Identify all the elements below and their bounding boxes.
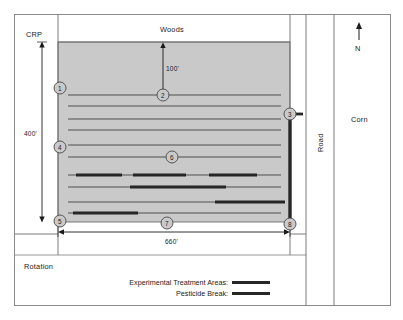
marker-1-label: 1	[58, 85, 62, 92]
marker-4-label: 4	[58, 144, 62, 151]
setback-dimension-label: 100'	[166, 65, 179, 72]
legend-item-pesticide: Pesticide Break:	[110, 289, 270, 298]
rotation-label: Rotation	[24, 262, 53, 271]
marker-6-label: 6	[170, 154, 174, 161]
north-label: N	[355, 44, 361, 53]
corn-label: Corn	[351, 115, 368, 124]
legend-label-pesticide: Pesticide Break:	[176, 289, 228, 298]
legend-swatch-treatment	[232, 281, 270, 284]
field-height-dimension-label: 400'	[24, 130, 37, 137]
marker-5-label: 5	[58, 218, 62, 225]
marker-8-label: 8	[288, 221, 292, 228]
diagram-canvas	[0, 0, 403, 320]
marker-2-label: 2	[161, 92, 165, 99]
marker-3-label: 3	[288, 111, 292, 118]
road-label: Road	[316, 134, 325, 152]
field-layout-diagram: 1 2 3 4 5 6 7 8 CRP Woods Rotation Road …	[0, 0, 403, 320]
legend-swatch-pesticide	[232, 292, 270, 295]
legend-item-treatment: Experimental Treatment Areas:	[110, 278, 270, 287]
legend-label-treatment: Experimental Treatment Areas:	[129, 278, 228, 287]
woods-label: Woods	[160, 25, 184, 34]
crp-label: CRP	[26, 30, 42, 39]
field-width-dimension-label: 660'	[165, 238, 178, 245]
marker-7-label: 7	[165, 220, 169, 227]
